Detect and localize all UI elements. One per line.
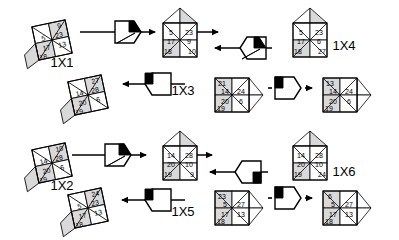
face-upper-right [180,131,197,146]
rotation-op-bot-left [105,144,131,166]
cube-middle-left: 27142820619 [55,75,109,124]
cube-1x5: 23527171318 [215,191,263,225]
face-point-lower [357,95,371,112]
num-top-left: 6 [328,193,332,200]
cube-1x6: 142820101924 [293,131,327,180]
cube-1x4: 5231761827 [293,8,327,57]
lbl-1x2: 1X2 [50,178,73,193]
num-lower-right: 13 [345,211,353,218]
num-lower-left: 17 [329,211,337,218]
num-lower-left: 20 [221,98,229,105]
num-lower-left: 17 [221,211,229,218]
num-lower-right: 6 [347,98,351,105]
cube-bottom-left: 24523171318 [55,188,109,237]
num-upper-left: 14 [297,152,305,159]
face-upper-right [180,8,197,23]
num-bottom-left: 18 [39,52,48,60]
face-point-upper [249,78,263,95]
operator-wedge [253,172,261,183]
num-top-left: 23 [218,193,226,200]
num-upper-right: 24 [237,88,245,95]
face-point-lower [357,208,371,225]
num-upper-right: 28 [315,152,323,159]
num-upper-left: 5 [169,29,173,36]
num-lower-right: 6 [239,98,243,105]
operator-layer [105,21,301,211]
num-upper-right: 28 [185,152,193,159]
face-point-upper [357,191,371,208]
num-bottom-left: 19 [39,175,48,183]
num-bottom-left: 18 [164,48,172,55]
cube-rotation-diagram: 9523171318523179181052317618272714282061… [0,0,399,240]
num-lower-left: 20 [329,98,337,105]
num-bottom-left: 18 [325,218,333,225]
lbl-1x4: 1X4 [332,38,355,53]
face-point-upper [249,191,263,208]
operator-wedge [129,21,141,32]
diagram-canvas: 9523171318523179181052317618272714282061… [0,0,399,240]
num-upper-left: 5 [299,29,303,36]
num-bottom-right: 27 [318,48,326,55]
face-point-lower [249,95,263,112]
operator-wedge [275,77,283,88]
num-bottom-left: 19 [164,171,172,178]
operator-wedge [275,187,283,198]
num-upper-left: 14 [221,88,229,95]
operator-wedge [119,144,131,155]
num-lower-left: 17 [297,38,305,45]
rotation-op-bot2-right [275,187,301,209]
rotation-op-bot-right [235,161,261,183]
num-upper-right: 27 [237,201,245,208]
num-lower-right: 10 [185,161,193,168]
face-upper-right [310,8,327,23]
num-lower-right: 10 [315,161,323,168]
num-top-left: 13 [326,80,334,87]
num-bottom-left: 18 [75,220,84,228]
num-upper-left: 5 [223,201,227,208]
num-upper-right: 24 [345,88,353,95]
num-upper-left: 5 [331,201,335,208]
face-upper-left [293,8,310,23]
face-upper-left [163,131,180,146]
num-upper-right: 27 [345,201,353,208]
num-lower-right: 6 [317,38,321,45]
num-lower-left: 17 [167,38,175,45]
face-upper-left [163,8,180,23]
rotation-op-mid-left [145,73,171,95]
num-upper-right: 23 [185,29,193,36]
cube-middle-right: 13142420619 [323,78,371,112]
rotation-op-mid-right [275,77,301,99]
num-lower-left: 20 [167,161,175,168]
num-bottom-right: 10 [188,48,196,55]
num-top-left: 21 [218,80,226,87]
operator-wedge [145,189,153,200]
num-bottom-left: 19 [325,105,333,112]
num-lower-right: 9 [187,38,191,45]
rotation-op-top-left [115,21,141,43]
num-bottom-right: 9 [190,171,194,178]
cube-layer: 9523171318523179181052317618272714282061… [19,8,371,237]
cube-top-middle: 5231791810 [163,8,197,57]
cube-1x3: 21142420619 [215,78,263,112]
rotation-op-top-right [240,37,266,59]
num-bottom-left: 18 [294,48,302,55]
lbl-1x1: 1X1 [50,55,73,70]
num-upper-right: 23 [315,29,323,36]
face-upper-right [310,131,327,146]
lbl-1x5: 1X5 [171,204,194,219]
num-bottom-left: 19 [217,105,225,112]
num-lower-right: 13 [237,211,245,218]
num-bottom-left: 18 [217,218,225,225]
face-point-lower [249,208,263,225]
lbl-1x3: 1X3 [171,83,194,98]
face-point-upper [357,78,371,95]
operator-wedge [145,73,153,84]
lbl-1x6: 1X6 [332,164,355,179]
num-upper-left: 14 [329,88,337,95]
face-upper-left [293,131,310,146]
num-bottom-right: 24 [318,171,326,178]
num-bottom-left: 19 [294,171,302,178]
rotation-op-bot2-left [145,189,171,211]
num-upper-left: 14 [167,152,175,159]
cube-bottom-right: 6527171318 [323,191,371,225]
